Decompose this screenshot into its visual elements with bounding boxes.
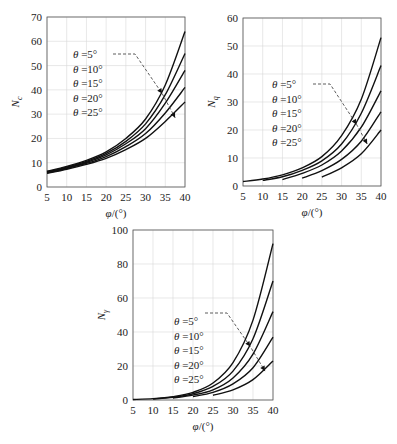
x-tick-label: 30 (336, 190, 348, 202)
y-tick-label: 20 (117, 360, 129, 372)
legend-entry: θ =5° (272, 78, 296, 90)
y-tick-label: 60 (117, 292, 129, 304)
legend-entry: θ =25° (73, 106, 103, 118)
y-tick-label: 0 (233, 180, 239, 192)
legend-entry: θ =25° (272, 136, 302, 148)
x-tick-label: 5 (130, 404, 136, 416)
chart-nc: 510152025303540010203040506070φ/(°)Ncθ =… (9, 11, 191, 220)
y-tick-label: 60 (227, 12, 239, 24)
x-tick-label: 20 (101, 191, 113, 203)
legend-entry: θ =5° (73, 48, 97, 60)
arrowhead-icon (157, 88, 162, 94)
x-tick-label: 25 (208, 404, 220, 416)
x-tick-label: 20 (188, 404, 200, 416)
y-tick-label: 100 (112, 224, 129, 236)
series-curve (47, 87, 185, 172)
y-tick-label: 10 (31, 157, 43, 169)
x-tick-label: 30 (140, 191, 152, 203)
y-tick-label: 70 (31, 11, 43, 23)
x-tick-label: 15 (277, 190, 289, 202)
legend-entry: θ =20° (272, 122, 302, 134)
legend-entry: θ =15° (73, 77, 103, 89)
y-tick-label: 50 (227, 40, 239, 52)
x-tick-label: 10 (148, 404, 160, 416)
plot-frame (47, 17, 185, 187)
y-tick-label: 20 (31, 132, 43, 144)
legend-pointer-arrow (205, 313, 265, 371)
x-tick-label: 5 (240, 190, 246, 202)
y-tick-label: 0 (123, 394, 129, 406)
x-tick-label: 10 (257, 190, 269, 202)
x-tick-label: 35 (248, 404, 260, 416)
x-tick-label: 15 (81, 191, 93, 203)
y-tick-label: 50 (31, 60, 43, 72)
x-tick-label: 35 (160, 191, 172, 203)
x-tick-label: 30 (228, 404, 240, 416)
x-tick-label: 10 (61, 191, 73, 203)
arrowhead-icon (245, 341, 250, 347)
arrowhead-icon (352, 119, 357, 125)
y-axis-label: Nγ (95, 309, 110, 321)
y-tick-label: 80 (117, 258, 129, 270)
legend-entry: θ =15° (272, 107, 302, 119)
x-tick-label: 40 (180, 191, 192, 203)
x-axis-label: φ/(°) (106, 207, 127, 220)
y-tick-label: 0 (37, 181, 43, 193)
x-axis-label: φ/(°) (193, 420, 214, 433)
y-tick-label: 60 (31, 35, 43, 47)
legend-entry: θ =10° (73, 63, 103, 75)
chart-nq: 5101520253035400102030405060φ/(°)Nqθ =5°… (205, 12, 387, 219)
y-tick-label: 40 (227, 68, 239, 80)
legend-pointer-arrow (113, 54, 175, 118)
y-tick-label: 30 (31, 108, 43, 120)
y-tick-label: 40 (117, 326, 129, 338)
x-axis-label: φ/(°) (302, 206, 323, 219)
figure-canvas: 510152025303540010203040506070φ/(°)Ncθ =… (0, 0, 397, 444)
x-tick-label: 40 (268, 404, 280, 416)
y-tick-label: 10 (227, 152, 239, 164)
y-axis-label: Nc (9, 96, 24, 108)
series-curve (243, 38, 381, 182)
x-tick-label: 35 (356, 190, 368, 202)
x-tick-label: 15 (168, 404, 180, 416)
y-tick-label: 30 (227, 96, 239, 108)
legend-entry: θ =15° (174, 344, 204, 356)
legend-entry: θ =10° (174, 330, 204, 342)
x-tick-label: 25 (316, 190, 328, 202)
x-tick-label: 5 (44, 191, 50, 203)
legend-entry: θ =5° (174, 315, 198, 327)
legend-pointer-arrow (313, 84, 367, 144)
x-tick-label: 25 (120, 191, 132, 203)
x-tick-label: 40 (376, 190, 388, 202)
chart-ngamma: 510152025303540020406080100φ/(°)Nγθ =5°θ… (95, 224, 279, 433)
legend-entry: θ =20° (174, 359, 204, 371)
legend-entry: θ =10° (272, 93, 302, 105)
legend-entry: θ =20° (73, 92, 103, 104)
legend-entry: θ =25° (174, 373, 204, 385)
x-tick-label: 20 (297, 190, 309, 202)
y-tick-label: 20 (227, 124, 239, 136)
y-axis-label: Nq (205, 96, 220, 108)
y-tick-label: 40 (31, 84, 43, 96)
